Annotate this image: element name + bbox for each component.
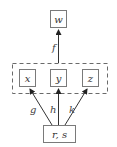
- node-x-label: x: [25, 73, 31, 84]
- node-z-label: z: [87, 73, 94, 84]
- node-z: z: [83, 70, 99, 87]
- node-x: x: [20, 70, 36, 87]
- node-w: w: [51, 11, 67, 28]
- edge-label-k: k: [69, 104, 75, 115]
- node-y-label: y: [55, 73, 62, 84]
- node-rs: r, s: [44, 126, 76, 143]
- node-y: y: [51, 70, 67, 87]
- node-rs-label: r, s: [52, 129, 67, 140]
- node-w-label: w: [54, 14, 63, 25]
- diagram-canvas: f w x y z g h k r, s: [0, 0, 117, 147]
- edge-label-f: f: [51, 42, 58, 53]
- edge-label-h: h: [50, 104, 56, 115]
- edge-label-g: g: [30, 104, 36, 115]
